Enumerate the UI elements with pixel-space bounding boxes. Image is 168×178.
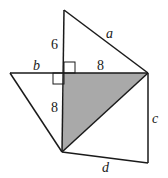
label-b: b xyxy=(33,58,40,73)
right-angle-marker-upper xyxy=(64,62,75,73)
label-a: a xyxy=(106,26,113,41)
label-six: 6 xyxy=(51,37,58,52)
edge-a xyxy=(64,10,148,73)
label-eight-horizontal: 8 xyxy=(97,58,104,73)
geometry-diagram: a b c d 6 8 8 xyxy=(0,0,168,178)
label-d: d xyxy=(102,160,110,175)
label-eight-vertical: 8 xyxy=(51,100,58,115)
label-c: c xyxy=(152,111,159,126)
